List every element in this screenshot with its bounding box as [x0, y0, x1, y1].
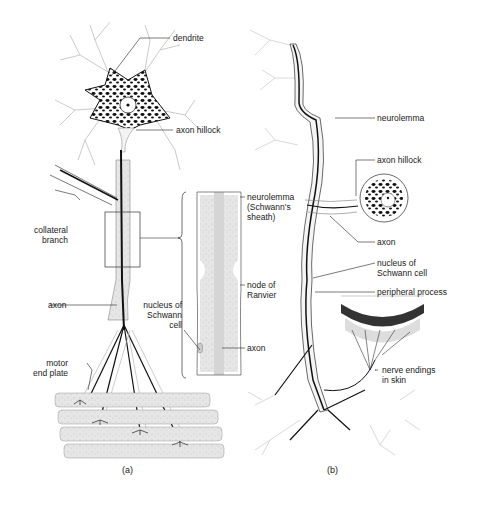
- label-neurolemma-sheath: neurolemma (Schwann's sheath): [247, 192, 294, 222]
- label-nucleus-schwann-b: nucleus of Schwann cell: [377, 258, 427, 278]
- motor-neuron: [50, 22, 245, 458]
- sensory-neuron: [248, 30, 424, 455]
- inset-enlargement: [197, 192, 241, 375]
- caption-a: (a): [122, 465, 133, 475]
- label-collateral-branch: collateral branch: [20, 225, 68, 245]
- neuron-diagram: [0, 0, 480, 505]
- label-neurolemma: neurolemma: [377, 113, 424, 123]
- myelin-sheath: [108, 160, 130, 320]
- collateral: [50, 165, 117, 205]
- label-motor-end-plate: motor end plate: [20, 358, 68, 378]
- label-axon-hillock-b: axon hillock: [377, 155, 421, 165]
- caption-b: (b): [327, 465, 338, 475]
- label-peripheral-process: peripheral process: [377, 287, 447, 297]
- label-axon-a: axon: [48, 300, 66, 310]
- label-node-of-ranvier: node of Ranvier: [247, 280, 276, 300]
- label-nerve-endings: nerve endings in skin: [382, 365, 435, 385]
- label-nucleus-schwann-a: nucleus of Schwann cell: [130, 300, 182, 330]
- terminal-branches: [88, 325, 180, 442]
- label-axon-b: axon: [377, 237, 395, 247]
- label-dendrite: dendrite: [173, 33, 204, 43]
- label-inset-axon: axon: [247, 343, 265, 353]
- label-axon-hillock-a: axon hillock: [176, 125, 220, 135]
